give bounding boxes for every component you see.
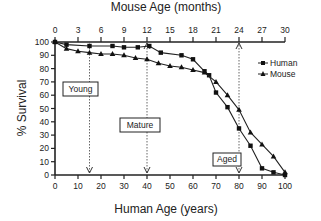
x-tick-label: 20 — [96, 181, 106, 191]
x2-tick-label: 0 — [53, 25, 58, 35]
y-tick-label: 100 — [35, 37, 49, 47]
top-axis-title: Mouse Age (months) — [111, 0, 222, 14]
square-marker-icon — [179, 53, 183, 57]
legend-label: Human — [270, 58, 298, 68]
y-tick-label: 90 — [40, 50, 50, 60]
square-marker-icon — [122, 45, 126, 49]
x2-tick-label: 9 — [122, 25, 127, 35]
square-marker-icon — [191, 57, 195, 61]
square-marker-icon — [237, 126, 241, 130]
legend: HumanMouse — [258, 58, 298, 79]
square-marker-icon — [248, 144, 252, 148]
x-tick-label: 80 — [234, 181, 244, 191]
x2-tick-label: 21 — [211, 25, 221, 35]
square-marker-icon — [225, 105, 229, 109]
x2-tick-label: 27 — [257, 25, 267, 35]
square-marker-icon — [110, 44, 114, 48]
survival-chart: 0102030405060708090100036912151821242730… — [0, 0, 321, 221]
x-tick-label: 0 — [53, 181, 58, 191]
bottom-axis-title: Human Age (years) — [114, 202, 217, 216]
stage-box-label: Mature — [127, 120, 154, 130]
arrow-head-down-icon — [87, 167, 93, 173]
triangle-marker-icon — [248, 129, 254, 134]
x2-tick-label: 30 — [280, 25, 290, 35]
series-line-mouse — [55, 42, 285, 172]
x-tick-label: 30 — [119, 181, 129, 191]
x2-tick-label: 24 — [234, 25, 244, 35]
square-marker-icon — [147, 44, 151, 48]
square-marker-icon — [214, 90, 218, 94]
y-tick-label: 20 — [40, 143, 50, 153]
x2-tick-label: 18 — [188, 25, 198, 35]
x-tick-label: 60 — [188, 181, 198, 191]
x-tick-label: 70 — [211, 181, 221, 191]
x2-tick-label: 15 — [165, 25, 175, 35]
square-marker-icon — [271, 170, 275, 174]
y-tick-label: 60 — [40, 90, 50, 100]
square-marker-icon — [260, 166, 264, 170]
x2-tick-label: 6 — [99, 25, 104, 35]
x-tick-label: 90 — [257, 181, 267, 191]
square-marker-icon — [136, 45, 140, 49]
square-marker-icon — [159, 50, 163, 54]
stage-box-label: Aged — [217, 154, 237, 164]
y-axis-title: % Survival — [15, 80, 29, 137]
y-tick-label: 40 — [40, 117, 50, 127]
chart-svg: 0102030405060708090100036912151821242730… — [0, 0, 321, 221]
series — [52, 39, 288, 177]
y-tick-label: 50 — [40, 104, 50, 114]
x2-tick-label: 12 — [142, 25, 152, 35]
arrow-head-down-icon — [236, 167, 242, 173]
x-tick-label: 10 — [73, 181, 83, 191]
y-tick-label: 10 — [40, 157, 50, 167]
square-marker-icon — [87, 44, 91, 48]
x-tick-label: 50 — [165, 181, 175, 191]
y-tick-label: 30 — [40, 130, 50, 140]
y-tick-label: 70 — [40, 77, 50, 87]
x2-tick-label: 3 — [76, 25, 81, 35]
y-tick-label: 80 — [40, 64, 50, 74]
x-tick-label: 100 — [278, 181, 292, 191]
arrow-head-down-icon — [144, 167, 150, 173]
legend-square-icon — [261, 61, 265, 65]
y-tick-label: 0 — [44, 170, 49, 180]
stage-box-label: Young — [69, 84, 93, 94]
x-tick-label: 40 — [142, 181, 152, 191]
legend-label: Mouse — [270, 69, 296, 79]
